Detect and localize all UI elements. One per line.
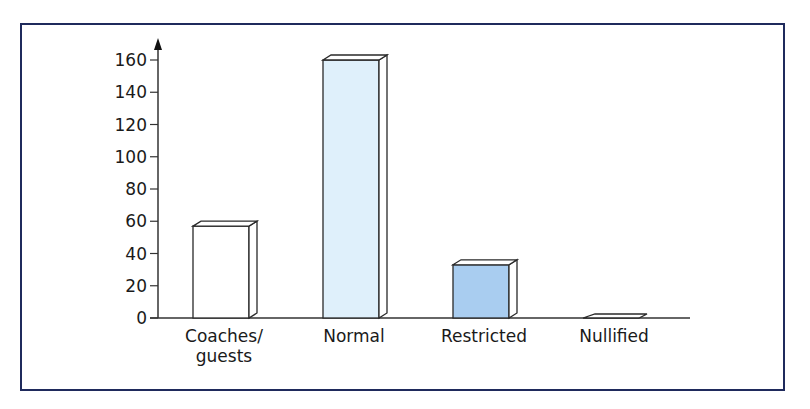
x-category-label: Coaches/ [185,326,263,346]
y-tick-label: 60 [125,211,147,231]
x-category-label: guests [196,346,253,366]
bar-chart: 020406080100120140160Coaches/guestsNorma… [0,0,810,409]
y-tick-label: 40 [125,244,147,264]
y-tick-label: 140 [115,82,147,102]
x-category-label: Normal [323,326,385,346]
bar-nullified [583,314,647,318]
x-category-label: Restricted [441,326,527,346]
bar-restricted [453,260,517,318]
y-tick-label: 0 [136,308,147,328]
bar-normal [323,55,387,318]
bar-coaches [193,221,257,318]
y-tick-label: 160 [115,50,147,70]
y-tick-label: 100 [115,147,147,167]
y-tick-label: 120 [115,115,147,135]
y-axis-arrow-icon [154,38,162,50]
y-tick-label: 20 [125,276,147,296]
y-tick-label: 80 [125,179,147,199]
x-category-label: Nullified [579,326,649,346]
